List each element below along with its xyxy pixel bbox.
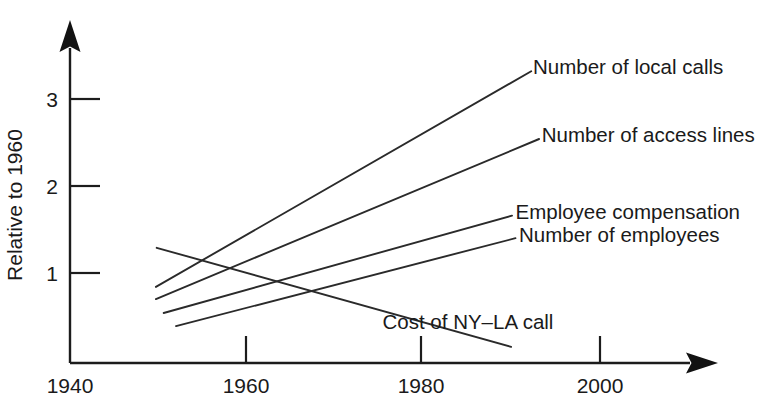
x-tick-label-1940: 1940 — [47, 374, 94, 397]
series-group — [156, 71, 539, 347]
line-chart-canvas: 3 2 1 1940 1960 1980 2000 Relative to 19… — [0, 0, 783, 413]
series-label-employee-compensation: Employee compensation — [516, 200, 741, 223]
x-tick-label-1980: 1980 — [398, 374, 445, 397]
x-tick-group: 1940 1960 1980 2000 — [47, 336, 624, 397]
series-label-number-of-employees: Number of employees — [519, 223, 720, 246]
y-tick-label-3: 3 — [46, 88, 58, 111]
y-axis-title: Relative to 1960 — [3, 129, 26, 281]
chart-figure: 3 2 1 1940 1960 1980 2000 Relative to 19… — [0, 0, 783, 413]
series-line-number-of-local-calls[interactable] — [156, 71, 531, 287]
series-label-cost-of-ny-la-call: Cost of NY–LA call — [383, 310, 554, 333]
x-tick-label-1960: 1960 — [223, 374, 270, 397]
y-tick-group: 3 2 1 — [46, 88, 100, 285]
series-label-number-of-access-lines: Number of access lines — [542, 123, 755, 146]
x-tick-label-2000: 2000 — [577, 374, 624, 397]
series-label-group: Number of local calls Number of access l… — [383, 55, 755, 333]
y-tick-label-2: 2 — [46, 175, 58, 198]
arrow-right-icon — [686, 353, 718, 374]
series-label-number-of-local-calls: Number of local calls — [533, 55, 723, 78]
y-tick-label-1: 1 — [46, 262, 58, 285]
series-line-number-of-access-lines[interactable] — [156, 139, 539, 299]
arrow-up-icon — [60, 20, 81, 52]
